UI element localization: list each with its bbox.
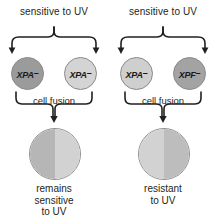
fused-cell-left-half-b (55, 129, 80, 179)
panel-right: sensitive to UV XPA– XPF– cell fusion (109, 0, 217, 220)
fused-cell-right (138, 128, 190, 180)
panel-right-caption: resistant to UV (109, 183, 217, 206)
caption-line: remains (0, 183, 108, 195)
cell-right-genotype-2: XPF– (179, 67, 201, 79)
cell-left-xpa-minus-dark: XPA– (11, 57, 44, 90)
split-brace-left (6, 27, 102, 55)
fused-cell-right-half-b (164, 129, 189, 179)
cell-right-xpf-minus-dark: XPF– (173, 57, 206, 90)
caption-line: resistant (109, 183, 217, 195)
caption-line: to UV (109, 195, 217, 207)
panel-left-caption: remains sensitive to UV (0, 183, 108, 218)
fused-cell-left-half-a (30, 129, 55, 179)
diagram-canvas: sensitive to UV XPA– XPA– cell fusion (0, 0, 217, 220)
split-brace-right (115, 27, 211, 55)
cell-right-genotype-1: XPA– (125, 67, 147, 79)
fused-cell-left (29, 128, 81, 180)
panel-right-heading: sensitive to UV (109, 6, 217, 18)
caption-line: to UV (0, 206, 108, 218)
cell-right-xpa-minus-light: XPA– (120, 57, 153, 90)
cell-left-genotype-1: XPA– (16, 67, 38, 79)
panel-left-heading: sensitive to UV (0, 6, 108, 18)
panel-left: sensitive to UV XPA– XPA– cell fusion (0, 0, 108, 220)
cell-left-xpa-minus-light: XPA– (64, 57, 97, 90)
cell-left-genotype-2: XPA– (69, 67, 91, 79)
caption-line: sensitive (0, 195, 108, 207)
fusion-brace-left (14, 92, 94, 124)
fusion-brace-right (123, 92, 203, 124)
fused-cell-right-half-a (139, 129, 164, 179)
